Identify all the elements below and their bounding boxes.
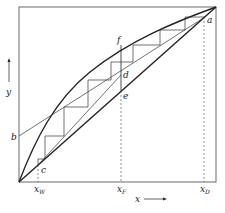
y-arrowhead-icon xyxy=(8,58,11,62)
point-c-label: c xyxy=(41,165,46,175)
mccabe-thiele-diagram: a b c d e f xW xF xD x y xyxy=(0,0,225,213)
x-arrowhead-icon xyxy=(163,198,167,201)
point-a-label: a xyxy=(207,15,212,25)
xf-label: xF xyxy=(117,184,127,195)
point-d-label: d xyxy=(123,70,129,80)
point-b-label: b xyxy=(11,132,17,142)
xw-label: xW xyxy=(34,184,46,195)
point-e-label: e xyxy=(123,91,128,101)
point-f-label: f xyxy=(116,35,122,45)
x-axis-label: x xyxy=(135,194,140,204)
diagonal-line xyxy=(19,7,216,182)
stripping-operating-line xyxy=(38,75,121,165)
y-axis-label: y xyxy=(5,87,12,97)
rectifying-operating-line xyxy=(19,17,205,136)
xd-label: xD xyxy=(200,184,210,195)
